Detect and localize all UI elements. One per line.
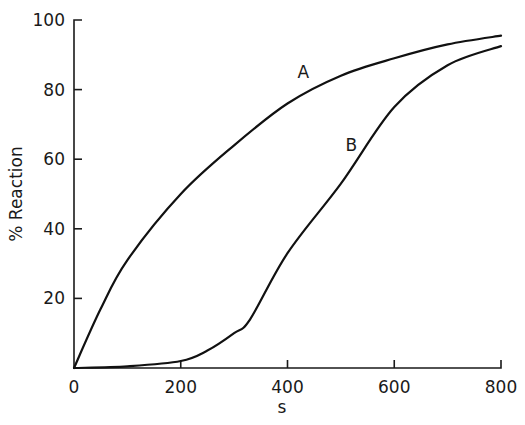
x-tick-label: 400 <box>271 377 303 397</box>
curve-labels: AB <box>298 62 358 155</box>
curve-b <box>74 46 501 368</box>
y-tick-label: 100 <box>33 10 65 30</box>
curves <box>74 36 501 368</box>
y-tick-label: 40 <box>43 219 65 239</box>
x-tick-label: 0 <box>69 377 80 397</box>
x-tick-label: 200 <box>165 377 197 397</box>
y-tick-label: 60 <box>43 149 65 169</box>
curve-label-a: A <box>298 62 310 82</box>
y-axis-title: % Reaction <box>6 146 26 241</box>
y-tick-label: 80 <box>43 80 65 100</box>
x-axis-title: s <box>278 397 287 417</box>
x-tick-label: 800 <box>485 377 517 397</box>
y-tick-label: 20 <box>43 288 65 308</box>
curve-a <box>74 36 501 368</box>
reaction-chart: 20406080100 0200400600800 AB s % Reactio… <box>0 0 525 425</box>
x-tick-label: 600 <box>378 377 410 397</box>
curve-label-b: B <box>346 135 358 155</box>
